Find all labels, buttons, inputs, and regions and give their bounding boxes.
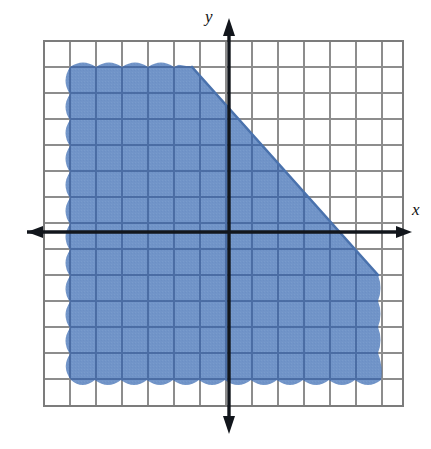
- x-axis-label: x: [412, 201, 420, 218]
- y-axis-label: y: [205, 8, 213, 25]
- coordinate-plane-graph: [0, 0, 431, 449]
- graph-figure: 11.: [0, 0, 431, 449]
